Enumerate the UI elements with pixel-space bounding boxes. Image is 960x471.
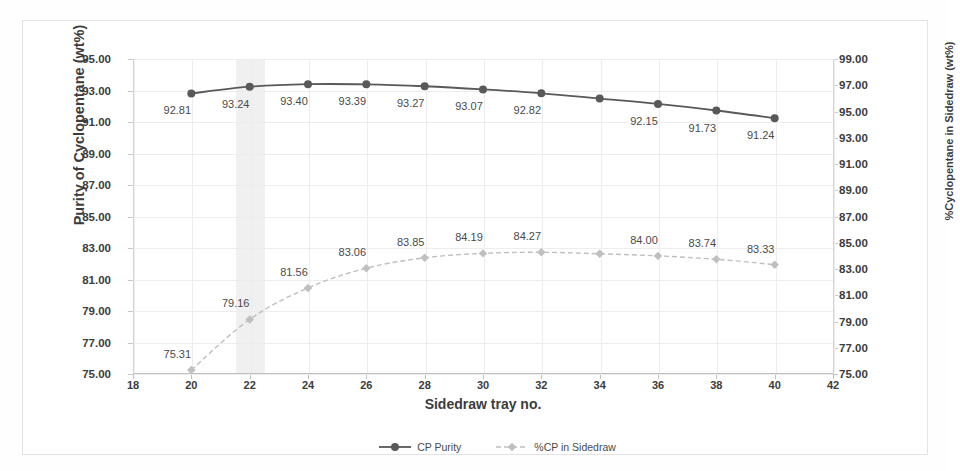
data-point-marker <box>420 254 428 262</box>
x-axis-tick-label: 38 <box>710 379 722 391</box>
gridline-vertical <box>834 59 835 373</box>
legend-label: CP Purity <box>417 441 461 453</box>
data-point-marker <box>654 252 662 260</box>
x-axis-tick-label: 22 <box>244 379 256 391</box>
y-axis-right-tick-label: 75.00 <box>839 368 901 380</box>
data-point-marker <box>362 80 370 88</box>
x-axis-tick-label: 42 <box>827 379 839 391</box>
x-axis-tick-label: 32 <box>535 379 547 391</box>
data-point-label: 93.07 <box>455 100 483 112</box>
data-point-marker <box>537 248 545 256</box>
y-axis-right-tick-label: 89.00 <box>839 184 901 196</box>
data-point-marker <box>304 80 312 88</box>
x-axis-tick-label: 34 <box>594 379 606 391</box>
x-axis-tick-label: 36 <box>652 379 664 391</box>
chart-frame: Purity of Cyclopentane (wt%) %Cyclopenta… <box>22 20 928 455</box>
data-point-label: 92.15 <box>630 115 658 127</box>
data-point-label: 79.16 <box>222 297 250 309</box>
data-point-marker <box>479 249 487 257</box>
y-axis-right-tick-label: 79.00 <box>839 316 901 328</box>
y-axis-left-tick-label: 95.00 <box>51 53 111 65</box>
data-point-label: 75.31 <box>164 348 192 360</box>
y-axis-right-tick-label: 77.00 <box>839 342 901 354</box>
gridline-horizontal <box>134 374 833 375</box>
data-point-label: 84.00 <box>630 234 658 246</box>
data-point-marker <box>421 82 429 90</box>
x-axis-tick-label: 28 <box>419 379 431 391</box>
y-axis-right-tick-label: 99.00 <box>839 53 901 65</box>
data-point-label: 91.24 <box>747 129 775 141</box>
data-point-marker <box>187 89 195 97</box>
data-point-label: 93.24 <box>222 98 250 110</box>
data-point-label: 92.81 <box>164 104 192 116</box>
data-point-marker <box>537 89 545 97</box>
y-axis-left-tick-label: 77.00 <box>51 337 111 349</box>
data-point-marker <box>712 107 720 115</box>
x-axis-tick-label: 18 <box>127 379 139 391</box>
data-point-marker <box>304 284 312 292</box>
data-point-label: 84.27 <box>514 230 542 242</box>
data-point-label: 93.39 <box>339 95 367 107</box>
data-point-label: 83.74 <box>689 237 717 249</box>
legend-item[interactable]: CP Purity <box>378 441 461 453</box>
x-axis-tick-label: 26 <box>360 379 372 391</box>
data-point-marker <box>479 85 487 93</box>
y-axis-left-tick-label: 83.00 <box>51 242 111 254</box>
data-point-label: 83.85 <box>397 236 425 248</box>
y-axis-right-tick-label: 97.00 <box>839 79 901 91</box>
data-point-label: 83.33 <box>747 243 775 255</box>
chart-legend: CP Purity%CP in Sidedraw <box>23 441 960 453</box>
x-axis-tick-label: 20 <box>185 379 197 391</box>
series-2 <box>187 248 779 374</box>
data-point-label: 84.19 <box>455 231 483 243</box>
y-axis-right-tick-label: 91.00 <box>839 158 901 170</box>
data-point-label: 93.27 <box>397 97 425 109</box>
data-point-label: 92.82 <box>514 104 542 116</box>
x-axis-tick-label: 40 <box>769 379 781 391</box>
data-point-marker <box>771 114 779 122</box>
data-point-marker <box>595 250 603 258</box>
y-axis-left-tick-label: 75.00 <box>51 368 111 380</box>
data-point-marker <box>596 95 604 103</box>
y-axis-right-tick-label: 81.00 <box>839 289 901 301</box>
series-line <box>191 252 774 370</box>
x-axis-tick-mark <box>833 374 834 379</box>
x-axis-title: Sidedraw tray no. <box>133 396 833 412</box>
legend-label: %CP in Sidedraw <box>534 441 616 453</box>
data-point-marker <box>770 260 778 268</box>
data-point-marker <box>246 83 254 91</box>
data-point-label: 81.56 <box>280 266 308 278</box>
y-axis-right-title: %Cyclopentane in Sidedraw (wt%) <box>943 11 955 251</box>
y-axis-right-tick-label: 87.00 <box>839 211 901 223</box>
y-axis-left-tick-label: 81.00 <box>51 274 111 286</box>
y-axis-left-tick-label: 91.00 <box>51 116 111 128</box>
y-axis-right-tick-label: 83.00 <box>839 263 901 275</box>
y-axis-right-tick-label: 85.00 <box>839 237 901 249</box>
y-axis-left-tick-label: 93.00 <box>51 85 111 97</box>
legend-swatch <box>495 441 529 453</box>
y-axis-right-tick-label: 95.00 <box>839 106 901 118</box>
y-axis-right-tick-label: 93.00 <box>839 132 901 144</box>
data-point-label: 91.73 <box>689 122 717 134</box>
x-axis-tick-label: 24 <box>302 379 314 391</box>
data-point-marker <box>654 100 662 108</box>
x-axis-tick-label: 30 <box>477 379 489 391</box>
y-axis-left-tick-label: 79.00 <box>51 305 111 317</box>
series-1 <box>187 80 778 122</box>
data-point-label: 83.06 <box>339 246 367 258</box>
data-point-marker <box>362 264 370 272</box>
data-point-label: 93.40 <box>280 95 308 107</box>
legend-item[interactable]: %CP in Sidedraw <box>495 441 616 453</box>
y-axis-left-tick-label: 89.00 <box>51 148 111 160</box>
legend-swatch <box>378 441 412 453</box>
y-axis-left-tick-label: 85.00 <box>51 211 111 223</box>
data-point-marker <box>712 255 720 263</box>
y-axis-left-tick-label: 87.00 <box>51 179 111 191</box>
